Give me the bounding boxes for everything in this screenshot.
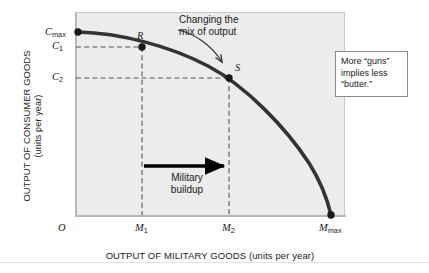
point-r-dot [138, 43, 145, 50]
annotation-military-buildup: Military buildup [145, 172, 229, 196]
point-label-r: R [137, 30, 143, 41]
annotation-changing-mix: Changing the mix of output [179, 14, 269, 38]
x-tick-mmax: Mmax [319, 222, 342, 235]
y-tick-cmax: Cmax [45, 26, 66, 39]
y-axis-title: OUTPUT OF CONSUMER GOODS (units per year… [22, 31, 44, 221]
point-s-dot [225, 74, 232, 81]
point-cmax-dot [74, 28, 81, 35]
footer-divider [0, 262, 429, 263]
callout-guns-butter: More “guns” implies less “butter.” [335, 51, 408, 97]
x-tick-m1: M1 [135, 222, 148, 235]
y-axis-title-line1: OUTPUT OF CONSUMER GOODS [22, 31, 33, 221]
military-buildup-line1: Military [145, 172, 229, 184]
callout-line2: implies less [341, 68, 402, 80]
x-tick-m2: M2 [222, 222, 235, 235]
military-buildup-line2: buildup [145, 184, 229, 196]
y-tick-c2: C2 [52, 71, 63, 84]
y-axis-title-line2: (units per year) [33, 31, 44, 221]
point-label-s: S [235, 62, 240, 73]
changing-mix-line2: mix of output [179, 26, 269, 38]
figure-production-possibilities-frontier: OUTPUT OF CONSUMER GOODS (units per year… [0, 0, 429, 273]
changing-mix-line1: Changing the [179, 14, 269, 26]
point-mmax-dot [327, 211, 334, 218]
callout-line3: “butter.” [341, 79, 402, 91]
x-axis-title: OUTPUT OF MILITARY GOODS (units per year… [75, 250, 345, 261]
y-tick-c1: C1 [52, 40, 63, 53]
origin-label: O [58, 222, 66, 233]
callout-line1: More “guns” [341, 56, 402, 68]
